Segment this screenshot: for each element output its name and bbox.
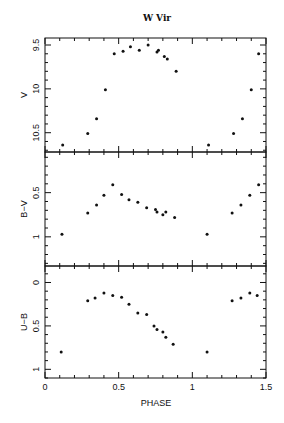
data-point — [102, 194, 105, 197]
x-tick-label: 0.5 — [112, 382, 125, 392]
data-point — [250, 88, 253, 91]
data-point — [175, 70, 178, 73]
data-point — [129, 45, 132, 48]
panel-frame — [45, 38, 266, 152]
data-point — [94, 297, 97, 300]
y-tick-label: 0 — [31, 280, 41, 285]
panel-2: 0.51B−V — [19, 152, 266, 266]
data-point — [239, 204, 242, 207]
data-point — [231, 299, 234, 302]
data-point — [161, 213, 164, 216]
data-point — [257, 52, 260, 55]
data-point — [172, 343, 175, 346]
data-point — [60, 233, 63, 236]
data-point — [136, 201, 139, 204]
data-point — [232, 132, 235, 135]
data-point — [120, 296, 123, 299]
y-tick-label: 9.5 — [31, 39, 41, 52]
light-curve-chart: W Vir PHASE 9.51010.5V0.51B−V00.51U−B00.… — [0, 0, 284, 423]
data-point — [154, 208, 157, 211]
data-point — [60, 350, 63, 353]
y-tick-label: 0.5 — [31, 320, 41, 333]
data-point — [145, 206, 148, 209]
panel-frame — [45, 266, 266, 378]
chart-title: W Vir — [142, 13, 171, 23]
data-point — [153, 324, 156, 327]
y-tick-label: 10 — [31, 84, 41, 94]
data-point — [127, 198, 130, 201]
data-point — [157, 49, 160, 52]
data-point — [248, 291, 251, 294]
data-point — [161, 330, 164, 333]
data-point — [147, 44, 150, 47]
data-point — [248, 194, 251, 197]
y-axis-title: U−B — [19, 313, 29, 331]
data-point — [256, 294, 259, 297]
data-point — [102, 291, 105, 294]
x-tick-label: 1 — [190, 382, 195, 392]
data-point — [104, 88, 107, 91]
y-tick-label: 1 — [31, 234, 41, 239]
data-point — [155, 211, 158, 214]
x-axis-title: PHASE — [141, 398, 172, 408]
y-tick-label: 1 — [31, 367, 41, 372]
data-point — [207, 143, 210, 146]
data-point — [86, 211, 89, 214]
data-point — [113, 52, 116, 55]
data-point — [136, 311, 139, 314]
data-point — [61, 143, 64, 146]
data-point — [239, 297, 242, 300]
data-point — [86, 132, 89, 135]
data-point — [257, 183, 260, 186]
data-point — [231, 211, 234, 214]
panel-3: 00.51U−B — [19, 266, 266, 378]
data-point — [163, 55, 166, 58]
data-point — [166, 58, 169, 61]
data-point — [127, 303, 130, 306]
data-point — [122, 50, 125, 53]
y-axis-title: V — [19, 92, 29, 98]
data-point — [164, 336, 167, 339]
data-point — [206, 350, 209, 353]
data-point — [145, 313, 148, 316]
data-point — [111, 183, 114, 186]
data-point — [155, 328, 158, 331]
y-axis-title: B−V — [19, 200, 29, 217]
data-point — [164, 211, 167, 214]
panel-1: 9.51010.5V — [19, 38, 266, 152]
data-point — [241, 117, 244, 120]
data-point — [206, 233, 209, 236]
x-tick-label: 1.5 — [260, 382, 273, 392]
data-point — [86, 299, 89, 302]
data-point — [95, 117, 98, 120]
data-point — [111, 294, 114, 297]
data-point — [95, 204, 98, 207]
panels-group: 9.51010.5V0.51B−V00.51U−B00.511.5 — [19, 38, 272, 392]
data-point — [138, 49, 141, 52]
data-point — [173, 216, 176, 219]
data-point — [120, 193, 123, 196]
y-tick-label: 0.5 — [31, 186, 41, 199]
y-tick-label: 10.5 — [31, 124, 41, 142]
x-tick-label: 0 — [42, 382, 47, 392]
